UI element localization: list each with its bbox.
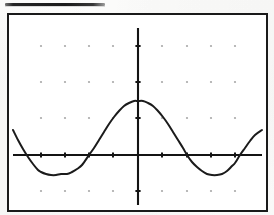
grid-dot bbox=[161, 45, 163, 47]
scanned-page bbox=[0, 0, 274, 215]
grid-dot bbox=[40, 190, 42, 192]
axes-layer bbox=[13, 28, 262, 205]
grid-dot bbox=[88, 190, 90, 192]
grid-dot bbox=[210, 117, 212, 119]
grid-dot bbox=[186, 117, 188, 119]
grid-dot bbox=[112, 45, 114, 47]
grid-dot bbox=[40, 117, 42, 119]
grid-dot bbox=[210, 45, 212, 47]
cosine-graph bbox=[0, 0, 274, 215]
grid-dot bbox=[88, 45, 90, 47]
grid-dot bbox=[234, 45, 236, 47]
grid-dot bbox=[40, 45, 42, 47]
grid-dot bbox=[210, 190, 212, 192]
grid-dot bbox=[234, 81, 236, 83]
grid-dot bbox=[40, 81, 42, 83]
grid-dot bbox=[64, 117, 66, 119]
grid-dot bbox=[186, 190, 188, 192]
grid-dot bbox=[88, 81, 90, 83]
grid-dot bbox=[234, 117, 236, 119]
grid-dot bbox=[186, 81, 188, 83]
grid-dot bbox=[64, 45, 66, 47]
grid-dot bbox=[234, 190, 236, 192]
grid-dot bbox=[161, 81, 163, 83]
grid-dot bbox=[210, 81, 212, 83]
grid-dot bbox=[88, 117, 90, 119]
grid-dot bbox=[161, 190, 163, 192]
grid-dot bbox=[112, 81, 114, 83]
grid-dot bbox=[64, 81, 66, 83]
grid-dot bbox=[186, 45, 188, 47]
grid-dot bbox=[64, 190, 66, 192]
grid-dot bbox=[112, 190, 114, 192]
